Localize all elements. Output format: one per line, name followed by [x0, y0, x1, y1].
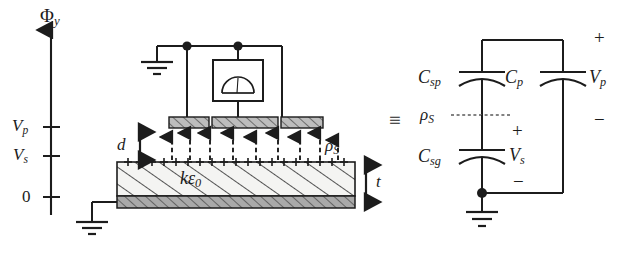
capacitor-label-csg: Csg — [418, 147, 441, 165]
thickness-label-t: t — [376, 173, 381, 190]
voltage-vs-minus: − — [513, 172, 524, 191]
gap-label-d: d — [117, 136, 126, 153]
axis-tick-vp: Vp — [12, 117, 28, 134]
junction-dot — [182, 41, 191, 50]
back-electrode — [117, 196, 355, 208]
capacitor-label-csp: Csp — [418, 68, 441, 86]
capacitor-cp — [540, 72, 586, 193]
axis-label-phi: Φy — [40, 6, 60, 25]
charge-layer-node — [451, 115, 512, 150]
equivalence-symbol: ≡ — [389, 110, 401, 131]
figure-canvas: Φy Vp Vs 0 d t kε0 ρS ≡ Csp Csg Cp ρS Vp… — [0, 0, 637, 256]
voltage-label-vp: Vp — [589, 68, 606, 86]
voltage-vp-minus: − — [594, 110, 605, 129]
capacitor-csg — [459, 150, 505, 193]
axis-tick-vs: Vs — [13, 146, 28, 163]
ground-symbol-probe — [141, 62, 173, 74]
ground-symbol-slab — [76, 202, 117, 234]
voltmeter — [213, 60, 263, 101]
capacitor-label-cp: Cp — [505, 68, 523, 86]
dielectric-slab — [117, 162, 355, 208]
capacitor-csp — [459, 72, 505, 115]
charge-node-label: ρS — [420, 106, 434, 123]
surface-charge-label-slab: ρS — [325, 137, 339, 154]
voltage-label-vs: Vs — [509, 146, 525, 164]
probe-electrodes — [169, 117, 323, 128]
permittivity-label: kε0 — [180, 169, 201, 187]
field-arrows — [172, 133, 338, 160]
potential-axis — [43, 30, 60, 215]
axis-tick-zero: 0 — [22, 188, 31, 205]
diagram-svg — [0, 0, 637, 256]
voltage-vp-plus: + — [594, 28, 605, 47]
voltage-vs-plus: + — [512, 121, 523, 140]
junction-dot — [233, 41, 242, 50]
ground-symbol-circuit — [466, 193, 498, 226]
